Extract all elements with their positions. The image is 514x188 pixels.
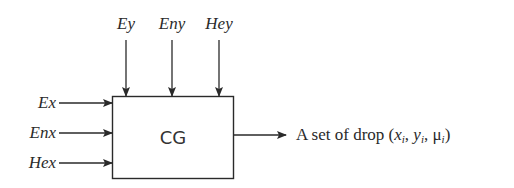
output-var-y: y [413, 125, 421, 144]
label-hey: Hey [205, 14, 232, 34]
label-ey: Ey [117, 14, 135, 34]
output-suffix: ) [445, 125, 451, 144]
label-hex: Hex [4, 153, 56, 173]
cg-block-label: CG [112, 96, 234, 179]
output-var-mu: μ [432, 125, 441, 144]
output-prefix: A set of drop ( [296, 125, 394, 144]
diagram-wires [0, 0, 514, 188]
label-ex: Ex [4, 93, 56, 113]
output-label: A set of drop (xi, yi, μi) [296, 124, 450, 150]
label-enx: Enx [4, 123, 56, 143]
label-eny: Eny [159, 14, 185, 34]
output-var-x: x [394, 125, 402, 144]
cloud-generator-diagram: Ey Eny Hey Ex Enx Hex CG A set of drop (… [0, 0, 514, 188]
